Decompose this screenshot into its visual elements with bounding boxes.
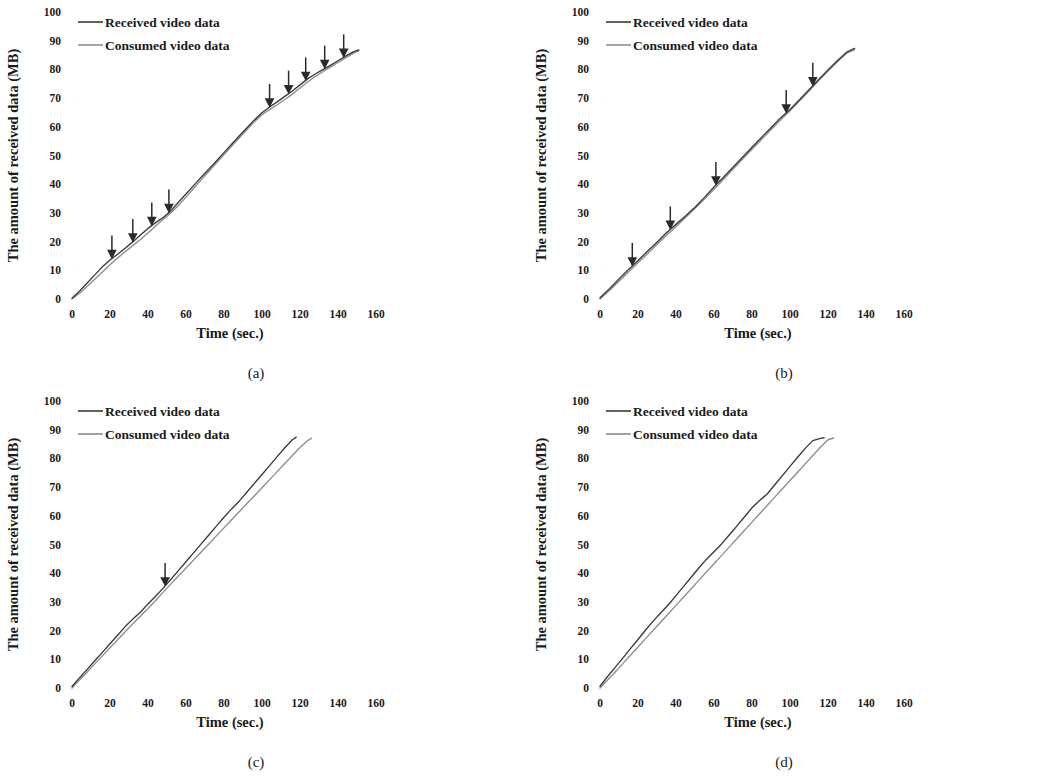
legend-label-received-b: Received video data [633,15,748,30]
y-tick-label-a-80: 80 [50,63,62,75]
event-arrow-a-5 [266,84,273,106]
x-axis-title-a: Time (sec.) [196,325,264,342]
event-arrow-b-4 [783,90,790,112]
legend-label-consumed-c: Consumed video data [105,427,230,442]
y-tick-label-d-80: 80 [578,452,590,464]
x-tick-label-d-140: 140 [857,697,875,709]
x-axis-title-b: Time (sec.) [724,325,792,342]
x-tick-label-c-100: 100 [253,697,271,709]
x-tick-label-c-60: 60 [180,697,192,709]
chart-svg-c: The amount of received data (MB)01020304… [0,389,528,779]
x-tick-label-a-100: 100 [253,308,271,320]
x-tick-label-b-60: 60 [708,308,720,320]
series-line-consumed-a [72,51,359,299]
legend-label-received-d: Received video data [633,404,748,419]
y-tick-label-b-60: 60 [578,121,590,133]
y-tick-label-d-40: 40 [578,567,590,579]
x-tick-label-c-80: 80 [218,697,230,709]
event-arrow-b-3 [712,162,719,184]
chart-panel-c: The amount of received data (MB)01020304… [0,389,528,779]
y-tick-label-a-50: 50 [50,150,62,162]
y-axis-title-b: The amount of received data (MB) [533,49,550,263]
x-tick-label-d-80: 80 [746,697,758,709]
y-tick-label-b-100: 100 [572,6,590,18]
y-tick-label-c-30: 30 [50,596,62,608]
x-tick-label-d-20: 20 [632,697,644,709]
y-tick-label-d-50: 50 [578,539,590,551]
y-tick-label-b-90: 90 [578,35,590,47]
x-tick-label-c-20: 20 [104,697,116,709]
y-tick-label-a-40: 40 [50,178,62,190]
x-tick-label-d-0: 0 [597,697,603,709]
event-arrow-a-7 [302,57,309,79]
y-tick-label-d-100: 100 [572,395,590,407]
event-arrow-a-6 [285,71,292,93]
y-tick-label-b-10: 10 [578,264,590,276]
event-arrow-a-1 [108,236,115,258]
y-tick-label-b-20: 20 [578,236,590,248]
y-tick-label-b-70: 70 [578,92,590,104]
y-tick-label-b-80: 80 [578,63,590,75]
x-tick-label-b-20: 20 [632,308,644,320]
x-tick-label-a-160: 160 [367,308,385,320]
x-tick-label-b-80: 80 [746,308,758,320]
event-arrow-a-2 [129,219,136,241]
x-tick-label-d-40: 40 [670,697,682,709]
x-tick-label-d-120: 120 [819,697,837,709]
y-tick-label-c-90: 90 [50,424,62,436]
y-tick-label-a-30: 30 [50,207,62,219]
x-tick-label-d-160: 160 [895,697,913,709]
legend-label-received-c: Received video data [105,404,220,419]
x-tick-label-a-60: 60 [180,308,192,320]
x-tick-label-b-140: 140 [857,308,875,320]
x-tick-label-a-80: 80 [218,308,230,320]
chart-svg-b: The amount of received data (MB)01020304… [528,0,1056,390]
y-tick-label-c-80: 80 [50,452,62,464]
x-tick-label-d-60: 60 [708,697,720,709]
legend-label-consumed-d: Consumed video data [633,427,758,442]
event-arrow-a-8 [321,46,328,68]
y-tick-label-a-20: 20 [50,236,62,248]
y-tick-label-d-10: 10 [578,653,590,665]
chart-svg-a: The amount of received data (MB)01020304… [0,0,528,390]
panel-caption-a: (a) [248,365,265,382]
event-arrow-b-1 [629,243,636,265]
x-tick-label-c-160: 160 [367,697,385,709]
y-tick-label-d-60: 60 [578,510,590,522]
y-tick-label-c-10: 10 [50,653,62,665]
x-tick-label-a-140: 140 [329,308,347,320]
event-arrow-a-4 [165,190,172,212]
y-tick-label-b-0: 0 [583,293,589,305]
y-tick-label-c-0: 0 [55,682,61,694]
x-tick-label-b-0: 0 [597,308,603,320]
event-arrow-a-3 [148,203,155,225]
y-tick-label-d-70: 70 [578,481,590,493]
x-tick-label-c-140: 140 [329,697,347,709]
y-tick-label-d-30: 30 [578,596,590,608]
x-axis-title-c: Time (sec.) [196,714,264,731]
chart-panel-a: The amount of received data (MB)01020304… [0,0,528,390]
y-tick-label-a-60: 60 [50,121,62,133]
y-tick-label-b-40: 40 [578,178,590,190]
x-tick-label-c-120: 120 [291,697,309,709]
y-tick-label-c-100: 100 [44,395,62,407]
y-tick-label-c-20: 20 [50,625,62,637]
y-axis-title-c: The amount of received data (MB) [5,438,22,652]
event-arrow-a-9 [340,34,347,56]
y-tick-label-a-100: 100 [44,6,62,18]
legend-label-consumed-a: Consumed video data [105,38,230,53]
x-tick-label-a-120: 120 [291,308,309,320]
event-arrow-b-2 [667,206,674,228]
panel-caption-c: (c) [248,754,265,771]
y-tick-label-d-20: 20 [578,625,590,637]
y-tick-label-c-50: 50 [50,539,62,551]
y-tick-label-a-0: 0 [55,293,61,305]
x-tick-label-c-40: 40 [142,697,154,709]
y-tick-label-d-90: 90 [578,424,590,436]
x-tick-label-d-100: 100 [781,697,799,709]
series-line-consumed-b [600,50,855,299]
y-axis-title-d: The amount of received data (MB) [533,438,550,652]
event-arrow-c-1 [162,563,169,585]
x-axis-title-d: Time (sec.) [724,714,792,731]
y-tick-label-a-10: 10 [50,264,62,276]
